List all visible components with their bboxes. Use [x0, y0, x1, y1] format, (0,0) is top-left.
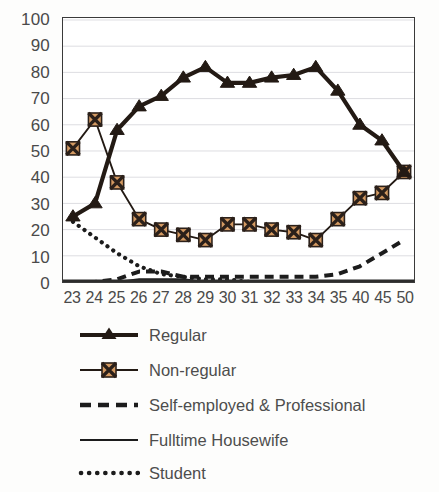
legend-item-self-employed-professional[interactable]: Self-employed & Professional — [78, 392, 365, 418]
line-triangle-marker-icon — [78, 323, 140, 347]
legend-item-fulltime-housewife[interactable]: Fulltime Housewife — [78, 427, 288, 453]
dashed-line-icon — [78, 393, 140, 417]
legend-item-label: Non-regular — [149, 360, 236, 380]
x-axis-tick-label: 25 — [108, 288, 125, 308]
x-axis-tick-label: 32 — [263, 288, 280, 308]
x-axis-tick-label: 35 — [330, 288, 347, 308]
y-axis-tick-label: 0 — [40, 275, 50, 292]
legend-item-student[interactable]: Student — [78, 460, 206, 486]
y-axis-tick-label: 80 — [31, 63, 50, 80]
y-axis-tick-label: 70 — [31, 90, 50, 107]
x-axis-tick-label: 26 — [130, 288, 147, 308]
plot-area — [62, 17, 415, 283]
y-axis-tick-label: 50 — [31, 143, 50, 160]
y-axis-tick-label: 20 — [31, 222, 50, 239]
data-point-marker — [198, 60, 212, 71]
series-line — [73, 240, 404, 282]
y-axis-tick-label: 60 — [31, 116, 50, 133]
x-axis: 23242526272829303132333435404550 — [62, 288, 415, 314]
chart-canvas — [63, 18, 414, 282]
x-axis-tick-label: 23 — [63, 288, 80, 308]
solid-line-icon — [78, 428, 140, 452]
legend-item-non-regular[interactable]: Non-regular — [78, 357, 236, 383]
line-square-x-marker-icon — [78, 358, 140, 382]
y-axis-tick-label: 90 — [31, 37, 50, 54]
legend-item-label: Student — [149, 463, 206, 483]
x-axis-tick-label: 24 — [86, 288, 103, 308]
chart-figure: 1009080706050403020100 23242526272829303… — [0, 0, 439, 320]
series-self-employed-professional — [73, 240, 404, 282]
x-axis-tick-label: 34 — [308, 288, 325, 308]
legend-item-regular[interactable]: Regular — [78, 322, 207, 348]
chart-legend: RegularNon-regularSelf-employed & Profes… — [0, 322, 439, 492]
dotted-line-icon — [78, 461, 140, 485]
x-axis-tick-label: 50 — [396, 288, 413, 308]
data-point-marker — [309, 60, 323, 71]
series-student — [73, 222, 404, 282]
y-axis-tick-label: 10 — [31, 248, 50, 265]
x-axis-tick-label: 27 — [152, 288, 169, 308]
x-axis-tick-label: 29 — [197, 288, 214, 308]
x-axis-tick-label: 45 — [374, 288, 391, 308]
y-axis: 1009080706050403020100 — [0, 0, 56, 292]
data-point-marker — [88, 197, 102, 208]
y-axis-tick-label: 30 — [31, 195, 50, 212]
y-axis-tick-label: 40 — [31, 169, 50, 186]
x-axis-tick-label: 33 — [285, 288, 302, 308]
x-axis-tick-label: 40 — [352, 288, 369, 308]
series-line — [73, 222, 404, 282]
legend-item-label: Regular — [149, 325, 207, 345]
legend-item-label: Self-employed & Professional — [149, 395, 365, 415]
y-axis-tick-label: 100 — [21, 11, 50, 28]
x-axis-tick-label: 30 — [219, 288, 236, 308]
legend-item-label: Fulltime Housewife — [149, 430, 288, 450]
x-axis-tick-label: 31 — [241, 288, 258, 308]
x-axis-tick-label: 28 — [174, 288, 191, 308]
